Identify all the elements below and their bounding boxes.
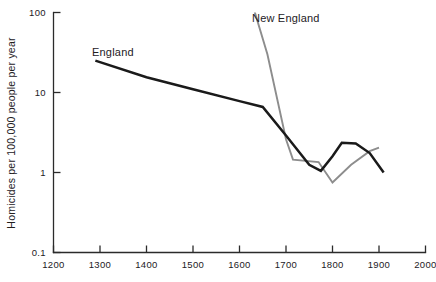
england-label: England — [92, 46, 134, 58]
x-tick-label-1500: 1500 — [182, 259, 205, 270]
x-tick-label-1700: 1700 — [275, 259, 298, 270]
y-tick-group: 100 10 1 0.1 — [29, 7, 60, 258]
x-tick-group: 1200 1300 1400 1500 1600 1700 1800 1900 … — [42, 246, 436, 271]
x-tick-label-1200: 1200 — [42, 259, 65, 270]
y-axis-title: Homicides per 100,000 people per year — [5, 37, 17, 229]
x-tick-label-1600: 1600 — [228, 259, 251, 270]
homicide-rate-line-chart: Homicides per 100,000 people per year 10… — [0, 0, 436, 282]
series-line-england — [95, 61, 383, 173]
y-tick-label-100: 100 — [29, 7, 46, 18]
y-tick-label-10: 10 — [35, 87, 46, 98]
x-tick-label-1800: 1800 — [321, 259, 344, 270]
x-tick-label-1900: 1900 — [368, 259, 391, 270]
y-tick-label-0-1: 0.1 — [32, 247, 46, 258]
chart-canvas: Homicides per 100,000 people per year 10… — [0, 0, 436, 282]
new-england-label: New England — [252, 12, 320, 24]
y-tick-label-1: 1 — [40, 167, 46, 178]
x-tick-label-1400: 1400 — [135, 259, 158, 270]
x-tick-label-1300: 1300 — [89, 259, 112, 270]
x-tick-label-2000: 2000 — [414, 259, 436, 270]
series-line-new-england — [253, 8, 379, 183]
